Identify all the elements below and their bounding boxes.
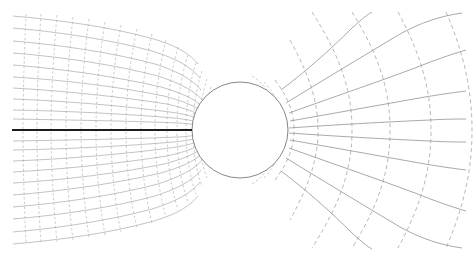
downstream-streamline-group bbox=[281, 12, 466, 249]
upstream-equipotential-group bbox=[23, 14, 221, 243]
flow-diagram-svg bbox=[0, 0, 474, 257]
downstream-equipotential-group bbox=[275, 12, 472, 248]
cylinder-outline bbox=[192, 82, 288, 178]
flow-figure bbox=[0, 0, 474, 257]
